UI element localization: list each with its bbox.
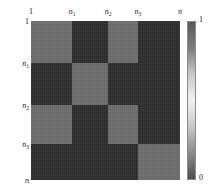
heatmap-cell bbox=[72, 144, 108, 180]
y-tick-label: n1 bbox=[22, 59, 29, 68]
colorbar-gradient bbox=[187, 21, 196, 180]
heatmap-cell bbox=[138, 63, 180, 105]
y-tick-label: n2 bbox=[22, 100, 29, 109]
y-tick-label: n bbox=[25, 176, 29, 185]
heatmap-cell bbox=[108, 105, 138, 144]
heatmap-cell bbox=[31, 144, 72, 180]
heatmap-grid bbox=[31, 21, 180, 180]
heatmap-cell bbox=[31, 105, 72, 144]
heatmap-cell bbox=[31, 21, 72, 63]
heatmap-cell bbox=[138, 21, 180, 63]
heatmap-cell bbox=[72, 21, 108, 63]
colorbar bbox=[187, 21, 196, 180]
heatmap-cell bbox=[108, 63, 138, 105]
x-tick-label: n1 bbox=[69, 7, 76, 16]
x-tick-label: n3 bbox=[135, 7, 142, 16]
heatmap-cell bbox=[108, 21, 138, 63]
colorbar-max-label: 1 bbox=[199, 15, 203, 24]
y-tick-label: 1 bbox=[25, 17, 29, 26]
heatmap-cell bbox=[108, 144, 138, 180]
heatmap-cell bbox=[138, 144, 180, 180]
heatmap-cell bbox=[31, 63, 72, 105]
x-tick-label: n2 bbox=[105, 7, 112, 16]
y-tick-label: n3 bbox=[22, 140, 29, 149]
heatmap-cell bbox=[72, 105, 108, 144]
heatmap-cell bbox=[72, 63, 108, 105]
colorbar-min-label: 0 bbox=[199, 173, 203, 182]
figure-canvas: 1n1n2n3n 1n1n2n3n 1 0 bbox=[0, 0, 212, 190]
heatmap-cell bbox=[138, 105, 180, 144]
x-tick-label: n bbox=[178, 7, 182, 16]
x-tick-label: 1 bbox=[29, 7, 33, 16]
